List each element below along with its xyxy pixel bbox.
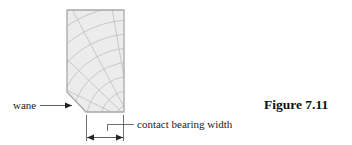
figure-canvas: wane contact bearing width Figure 7.11 (0, 0, 352, 145)
wane-annotation: wane (13, 99, 72, 111)
bearing-width-leader (108, 125, 135, 132)
section-body (67, 10, 124, 112)
wane-label: wane (13, 99, 36, 111)
figure-caption: Figure 7.11 (264, 97, 329, 112)
contact-bearing-width-label: contact bearing width (137, 118, 233, 130)
bearing-width-dimension: contact bearing width (87, 115, 233, 141)
